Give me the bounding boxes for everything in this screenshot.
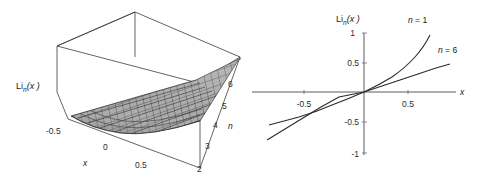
curves-x-axis-label: x bbox=[459, 87, 465, 97]
surface-n-tick-3: 3 bbox=[205, 141, 210, 151]
series-label-n1: n = 1 bbox=[408, 15, 427, 25]
y-tick-0p5: 0.5 bbox=[347, 58, 359, 68]
y-tick-1: 1 bbox=[350, 28, 355, 38]
surface-x-axis-label: x bbox=[82, 158, 88, 168]
surface-x-tick-0: -0.5 bbox=[46, 126, 61, 136]
surface-plot-panel: Lin(x ) -0.5 0 0.5 x 6 5 4 3 2 n bbox=[0, 0, 242, 181]
surface-x-tick-2: 0.5 bbox=[135, 160, 147, 170]
surface-x-tick-1: 0 bbox=[103, 142, 108, 152]
y-tick-m0p5: -0.5 bbox=[344, 117, 359, 127]
series-curve-n1 bbox=[269, 35, 430, 125]
surface-n-tick-6: 6 bbox=[228, 79, 233, 89]
curves-plot-svg: n = 1 n = 6 Lin(x ) 1 0.5 -0.5 -1 -0.5 0… bbox=[242, 0, 478, 181]
surface-n-axis-label: n bbox=[228, 121, 233, 131]
surface-fn-arg: (x ) bbox=[27, 81, 40, 91]
curves-x-tick-labels: -0.5 0.5 x bbox=[297, 87, 465, 109]
surface-n-tick-2: 2 bbox=[197, 164, 202, 174]
surface-n-tick-5: 5 bbox=[222, 101, 227, 111]
surface-plot-svg: Lin(x ) -0.5 0 0.5 x 6 5 4 3 2 n bbox=[0, 0, 242, 181]
surface-vertical-axis-label: Lin(x ) bbox=[16, 81, 40, 93]
figure-container: Lin(x ) -0.5 0 0.5 x 6 5 4 3 2 n bbox=[0, 0, 478, 181]
svg-text:Lin(x ): Lin(x ) bbox=[336, 14, 360, 26]
curves-title: Lin(x ) bbox=[336, 14, 360, 26]
surface-fn-label: Li bbox=[16, 81, 23, 91]
curves-fn-arg: (x ) bbox=[347, 14, 360, 24]
series-label-n6: n = 6 bbox=[438, 45, 457, 55]
svg-text:Lin(x ): Lin(x ) bbox=[16, 81, 40, 93]
x-tick-0p5: 0.5 bbox=[402, 99, 414, 109]
curves-fn-label: Li bbox=[336, 14, 343, 24]
curves-series-labels: n = 1 n = 6 bbox=[408, 15, 457, 55]
series-curve-n6 bbox=[267, 64, 450, 140]
x-tick-m0p5: -0.5 bbox=[297, 99, 312, 109]
surface-n-tick-4: 4 bbox=[213, 120, 218, 130]
y-tick-m1: -1 bbox=[351, 149, 359, 159]
curves-tickmarks bbox=[304, 33, 408, 153]
curves-plot-panel: n = 1 n = 6 Lin(x ) 1 0.5 -0.5 -1 -0.5 0… bbox=[242, 0, 478, 181]
